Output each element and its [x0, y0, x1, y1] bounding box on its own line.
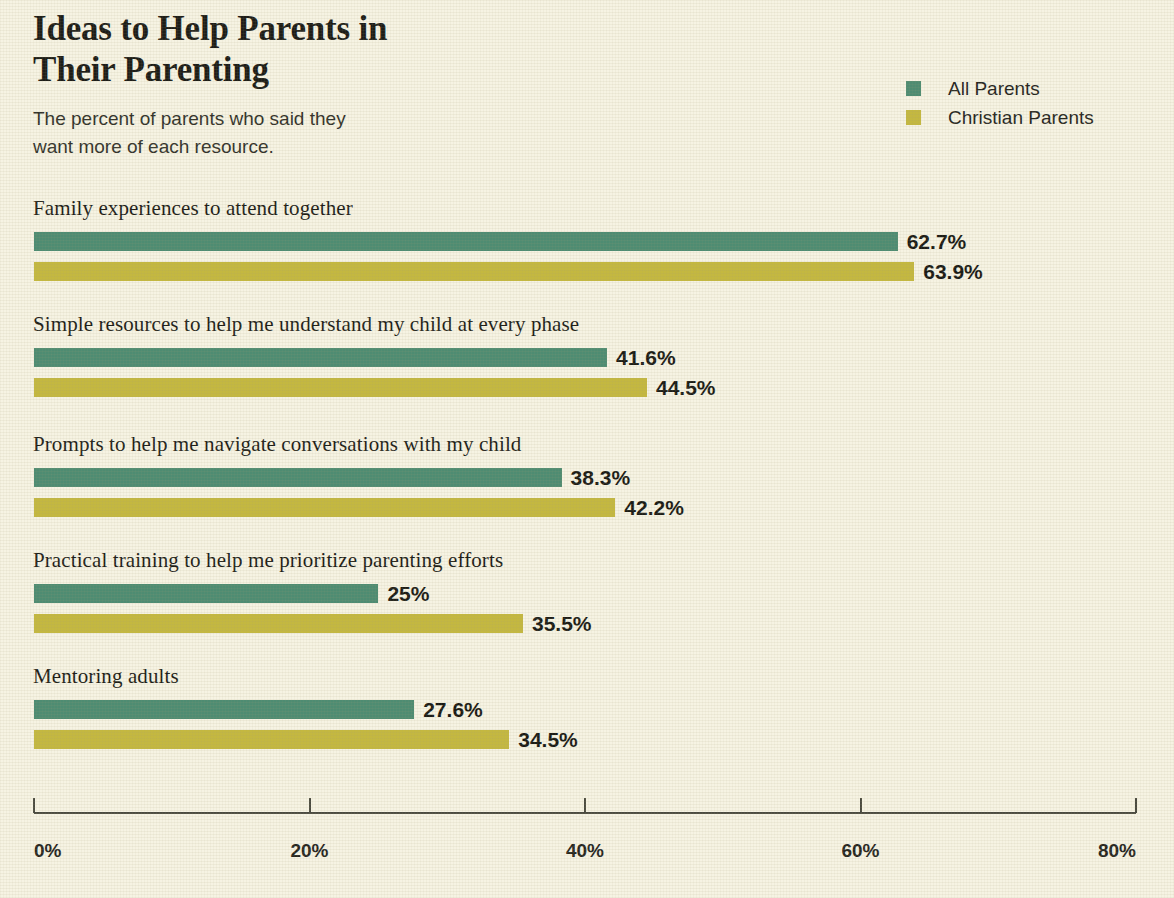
axis-tick — [584, 798, 586, 813]
axis-tick-label: 20% — [290, 840, 328, 862]
bar-christian-parents — [34, 498, 615, 517]
bar-christian-parents — [34, 614, 523, 633]
bar-christian-parents — [34, 378, 647, 397]
bar-row: 63.9% — [34, 262, 983, 281]
axis-tick — [33, 798, 35, 813]
bar-row: 41.6% — [34, 348, 676, 367]
bar-christian-parents — [34, 730, 509, 749]
category-label: Family experiences to attend together — [33, 196, 353, 221]
bar-all-parents — [34, 584, 378, 603]
bar-row: 27.6% — [34, 700, 483, 719]
category-label: Prompts to help me navigate conversation… — [33, 432, 521, 457]
bar-value-label: 35.5% — [532, 612, 592, 636]
chart-container: Ideas to Help Parents in Their Parenting… — [0, 0, 1174, 898]
bar-value-label: 44.5% — [656, 376, 716, 400]
bar-row: 34.5% — [34, 730, 578, 749]
category-label: Practical training to help me prioritize… — [33, 548, 503, 573]
bar-all-parents — [34, 232, 898, 251]
bar-value-label: 41.6% — [616, 346, 676, 370]
bar-value-label: 27.6% — [423, 698, 483, 722]
axis-tick — [1135, 798, 1137, 813]
bar-row: 25% — [34, 584, 429, 603]
axis-tick-label: 60% — [841, 840, 879, 862]
bar-row: 44.5% — [34, 378, 716, 397]
bar-all-parents — [34, 348, 607, 367]
bar-all-parents — [34, 468, 562, 487]
bar-row: 38.3% — [34, 468, 630, 487]
plot-area: Family experiences to attend together62.… — [0, 0, 1174, 898]
bar-christian-parents — [34, 262, 914, 281]
bar-value-label: 25% — [387, 582, 429, 606]
bar-all-parents — [34, 700, 414, 719]
axis-tick-label: 0% — [34, 840, 61, 862]
axis-tick — [309, 798, 311, 813]
bar-row: 62.7% — [34, 232, 966, 251]
bar-value-label: 38.3% — [571, 466, 631, 490]
axis-tick-label: 40% — [566, 840, 604, 862]
bar-row: 35.5% — [34, 614, 592, 633]
bar-value-label: 62.7% — [907, 230, 967, 254]
category-label: Mentoring adults — [33, 664, 179, 689]
bar-value-label: 42.2% — [624, 496, 684, 520]
axis-tick — [860, 798, 862, 813]
bar-row: 42.2% — [34, 498, 684, 517]
category-label: Simple resources to help me understand m… — [33, 312, 579, 337]
bar-value-label: 63.9% — [923, 260, 983, 284]
axis-tick-label: 80% — [1098, 840, 1136, 862]
bar-value-label: 34.5% — [518, 728, 578, 752]
